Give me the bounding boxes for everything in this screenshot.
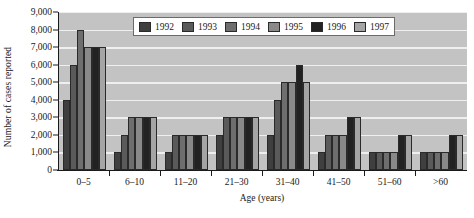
bar: [318, 152, 325, 170]
bar: [332, 135, 339, 170]
bar: [186, 135, 193, 170]
x-axis-tick-mark: [262, 171, 263, 176]
bar: [456, 135, 463, 170]
bar: [288, 82, 295, 170]
bar: [143, 117, 150, 170]
bar: [165, 152, 172, 170]
bar: [376, 152, 383, 170]
legend-swatch-icon: [354, 22, 366, 32]
bar: [245, 117, 252, 170]
bar: [252, 117, 259, 170]
bar: [281, 82, 288, 170]
y-axis-tick-label: 8,000: [12, 25, 52, 35]
chart-legend: 199219931994199519961997: [133, 17, 395, 36]
bar: [135, 117, 142, 170]
bar: [99, 47, 106, 170]
legend-swatch-icon: [182, 22, 194, 32]
bar: [237, 117, 244, 170]
bar: [390, 152, 397, 170]
legend-label: 1992: [155, 22, 174, 32]
legend-label: 1994: [241, 22, 260, 32]
bar: [114, 152, 121, 170]
bar-group: [63, 12, 106, 170]
bar: [150, 117, 157, 170]
y-axis-tick-labels: 01,0002,0003,0004,0005,0006,0007,0008,00…: [16, 12, 58, 170]
legend-entry: 1994: [225, 22, 260, 32]
bar: [405, 135, 412, 170]
y-axis-tick-label: 2,000: [12, 130, 52, 140]
bar: [354, 117, 361, 170]
bar: [441, 152, 448, 170]
y-axis-tick-label: 5,000: [12, 77, 52, 87]
y-axis-tick-label: 6,000: [12, 60, 52, 70]
bar: [325, 135, 332, 170]
bar: [63, 100, 70, 170]
bar: [70, 65, 77, 170]
bar: [216, 135, 223, 170]
bar: [267, 135, 274, 170]
x-axis-tick-label: 6–10: [125, 177, 144, 187]
legend-label: 1996: [327, 22, 346, 32]
x-axis-tick-label: 31–40: [276, 177, 300, 187]
bar: [449, 135, 456, 170]
y-axis-tick-label: 1,000: [12, 147, 52, 157]
legend-swatch-icon: [225, 22, 237, 32]
bar: [383, 152, 390, 170]
legend-swatch-icon: [139, 22, 151, 32]
legend-label: 1993: [198, 22, 217, 32]
x-axis-tick-label: 0–5: [76, 177, 90, 187]
legend-entry: 1992: [139, 22, 174, 32]
bar: [179, 135, 186, 170]
bar: [296, 65, 303, 170]
x-axis-tick-mark: [364, 171, 365, 176]
bar: [128, 117, 135, 170]
bar: [223, 117, 230, 170]
bar: [201, 135, 208, 170]
bar: [347, 117, 354, 170]
bar-group: [420, 12, 463, 170]
x-axis-tick-label: >60: [433, 177, 448, 187]
bar: [274, 100, 281, 170]
y-axis-tick-label: 7,000: [12, 42, 52, 52]
bar: [420, 152, 427, 170]
y-axis-tick-label: 9,000: [12, 7, 52, 17]
x-axis-tick-label: 21–30: [225, 177, 249, 187]
bar: [303, 82, 310, 170]
legend-label: 1997: [370, 22, 389, 32]
bar: [230, 117, 237, 170]
bar: [77, 30, 84, 170]
x-axis-title: Age (years): [58, 193, 466, 203]
legend-entry: 1997: [354, 22, 389, 32]
legend-entry: 1993: [182, 22, 217, 32]
bar: [172, 135, 179, 170]
x-axis-tick-mark: [109, 171, 110, 176]
x-axis-tick-mark: [160, 171, 161, 176]
bar: [398, 135, 405, 170]
bar: [84, 47, 91, 170]
bar: [369, 152, 376, 170]
x-axis-tick-mark: [313, 171, 314, 176]
y-axis-tick-label: 3,000: [12, 112, 52, 122]
x-axis-tick-mark: [415, 171, 416, 176]
legend-entry: 1995: [268, 22, 303, 32]
y-axis-tick-label: 0: [12, 165, 52, 175]
bar-chart: Number of cases reported 01,0002,0003,00…: [0, 0, 474, 218]
bar: [121, 135, 128, 170]
bar: [434, 152, 441, 170]
x-axis-tick-label: 11–20: [174, 177, 197, 187]
bar: [194, 135, 201, 170]
x-axis-tick-marks: [58, 171, 466, 176]
bar: [427, 152, 434, 170]
y-axis-tick-label: 4,000: [12, 95, 52, 105]
legend-swatch-icon: [311, 22, 323, 32]
x-axis-tick-labels: 0–56–1011–2021–3031–4041–5051–60>60: [58, 177, 466, 191]
x-axis-tick-label: 51–60: [378, 177, 402, 187]
legend-label: 1995: [284, 22, 303, 32]
x-axis-tick-label: 41–50: [327, 177, 351, 187]
bar: [339, 135, 346, 170]
bar: [92, 47, 99, 170]
legend-swatch-icon: [268, 22, 280, 32]
legend-entry: 1996: [311, 22, 346, 32]
x-axis-tick-mark: [211, 171, 212, 176]
